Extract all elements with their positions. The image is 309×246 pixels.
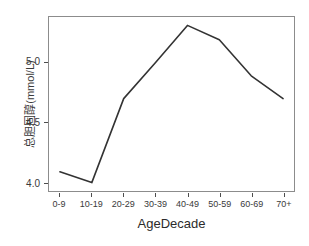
x-tick-label-10-19: 10-19 [80,199,103,209]
x-tick-mark-70+ [284,193,285,197]
x-tick-mark-0-9 [59,193,60,197]
x-tick-mark-40-49 [188,193,189,197]
y-tick-label-4-5: 4.5 [14,117,40,128]
plot-panel [48,16,295,192]
x-tick-label-70+: 70+ [276,199,291,209]
y-tick-label-4-0: 4.0 [14,178,40,189]
x-tick-mark-60-69 [252,193,253,197]
x-tick-mark-30-39 [155,193,156,197]
x-axis-title: AgeDecade [48,216,295,231]
x-tick-label-0-9: 0-9 [52,199,65,209]
y-axis-title: 总胆固醇(mmol/L) [21,29,37,179]
x-tick-label-60-69: 60-69 [240,199,263,209]
x-tick-label-30-39: 30-39 [144,199,167,209]
x-tick-label-40-49: 40-49 [176,199,199,209]
line-chart: 总胆固醇(mmol/L) 5.0 4.5 4.0 0-910-1920-2930… [0,0,309,246]
data-series-line [49,17,294,191]
y-tick-label-5-0: 5.0 [14,56,40,67]
x-tick-label-20-29: 20-29 [112,199,135,209]
x-tick-mark-20-29 [123,193,124,197]
x-tick-mark-10-19 [91,193,92,197]
x-tick-mark-50-59 [220,193,221,197]
y-axis-title-container: 总胆固醇(mmol/L) [2,16,24,192]
x-tick-label-50-59: 50-59 [208,199,231,209]
